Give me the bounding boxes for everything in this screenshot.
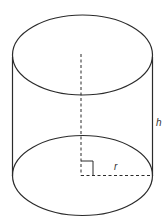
radius-label: r	[114, 161, 118, 172]
right-angle-marker	[81, 161, 93, 176]
cylinder-diagram: h r	[0, 0, 166, 224]
top-base-ellipse	[13, 15, 153, 95]
height-label: h	[156, 117, 162, 128]
